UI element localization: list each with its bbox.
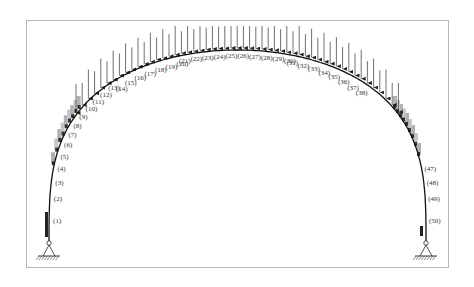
arch-curve bbox=[49, 50, 426, 243]
segment-label: (48) bbox=[427, 179, 439, 187]
supports bbox=[36, 241, 437, 260]
segment-label: (24) bbox=[214, 53, 226, 61]
load-arrows bbox=[76, 26, 398, 113]
load-shading bbox=[45, 96, 423, 237]
segment-label: (8) bbox=[74, 122, 83, 130]
segment-label: (22) bbox=[190, 55, 202, 63]
segment-label: (7) bbox=[69, 131, 78, 139]
segment-label: (27) bbox=[249, 53, 261, 61]
arch-diagram: (1)(2)(3)(4)(5)(6)(7)(8)(9)(10)(11)(12)(… bbox=[0, 0, 474, 287]
segment-label: (21) bbox=[179, 57, 191, 65]
segment-label: (5) bbox=[61, 153, 70, 161]
segment-label: (29) bbox=[273, 55, 285, 63]
pin-support-icon bbox=[36, 241, 60, 260]
segment-label: (6) bbox=[64, 141, 73, 149]
segment-label: (2) bbox=[54, 195, 63, 203]
segment-label: (50) bbox=[429, 217, 441, 225]
segment-label: (47) bbox=[425, 165, 437, 173]
segment-label: (9) bbox=[79, 113, 88, 121]
segment-label: (4) bbox=[58, 165, 67, 173]
segment-labels: (1)(2)(3)(4)(5)(6)(7)(8)(9)(10)(11)(12)(… bbox=[53, 52, 441, 225]
segment-label: (1) bbox=[53, 217, 62, 225]
segment-label: (38) bbox=[356, 89, 368, 97]
segment-label: (25) bbox=[226, 52, 238, 60]
segment-label: (11) bbox=[93, 98, 105, 106]
segment-label: (23) bbox=[202, 54, 214, 62]
segment-label: (26) bbox=[237, 52, 249, 60]
pin-support-icon bbox=[413, 241, 437, 260]
segment-label: (28) bbox=[261, 54, 273, 62]
segment-label: (49) bbox=[428, 195, 440, 203]
segment-label: (10) bbox=[86, 105, 98, 113]
segment-label: (3) bbox=[55, 179, 64, 187]
